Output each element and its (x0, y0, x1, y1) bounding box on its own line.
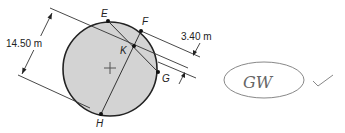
arrowhead-bottom-icon (22, 68, 27, 75)
label-e: E (101, 8, 108, 19)
label-h: H (96, 118, 104, 129)
point-h (99, 112, 103, 116)
point-f (139, 29, 143, 33)
dimension-label-14-50: 14.50 m (6, 38, 42, 49)
geometry-diagram: E F K G H 14.50 m 3.40 m GW (0, 0, 345, 133)
label-g: G (162, 73, 170, 84)
check-mark-icon (313, 75, 333, 86)
point-e (106, 19, 110, 23)
arrowhead-top-icon (48, 13, 53, 20)
dimension-label-3-40: 3.40 m (181, 31, 212, 42)
point-g (156, 70, 160, 74)
handwritten-initials: GW (243, 73, 274, 92)
label-f: F (142, 16, 149, 27)
point-k (132, 44, 136, 48)
